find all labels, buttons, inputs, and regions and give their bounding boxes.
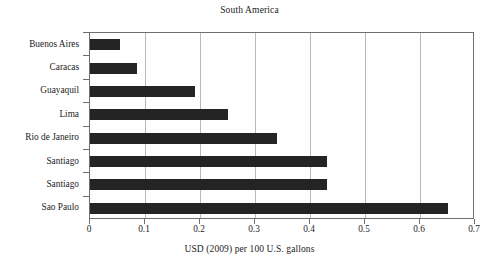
bar [90,63,137,74]
bar [90,179,327,190]
chart-title: South America [0,5,499,15]
bar-chart: South America Buenos AiresCaracasGuayaqu… [0,0,499,272]
y-axis-tick-label: Caracas [50,62,79,72]
x-axis-tick-labels: 00.10.20.30.40.50.60.7 [89,224,474,238]
y-axis-tick-label: Sao Paulo [42,202,79,212]
y-axis-tick-label: Guayaquil [40,85,79,95]
bar [90,109,228,120]
plot-area [89,32,474,219]
y-axis-tick-label: Santiago [46,156,79,166]
x-axis-tick-label: 0.1 [138,224,150,234]
bars-layer [90,33,473,218]
bar [90,133,277,144]
bar [90,86,195,97]
bar [90,156,327,167]
bar [90,39,120,50]
y-axis: Buenos AiresCaracasGuayaquilLimaRio de J… [0,32,85,219]
x-axis-tick-label: 0.3 [248,224,260,234]
y-axis-tick-label: Santiago [46,179,79,189]
x-axis-tick-label: 0.4 [303,224,315,234]
x-axis-tick-label: 0 [87,224,92,234]
x-axis-tick-label: 0.7 [468,224,480,234]
y-axis-tick-label: Buenos Aires [29,39,79,49]
y-axis-tick-label: Lima [59,109,79,119]
x-axis-tick-label: 0.5 [358,224,370,234]
x-axis-tick-label: 0.6 [413,224,425,234]
bar [90,203,448,214]
y-axis-tick-label: Rio de Janeiro [25,132,79,142]
x-axis-tick-label: 0.2 [193,224,205,234]
x-axis-title: USD (2009) per 100 U.S. gallons [0,244,499,254]
